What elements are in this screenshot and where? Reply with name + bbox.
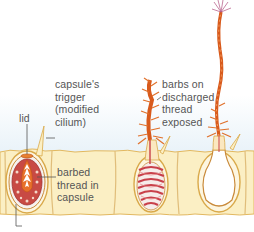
label-line: lid <box>19 112 30 125</box>
label-line: (modified <box>55 103 99 116</box>
diagram-artwork <box>0 0 254 232</box>
label-line: barbs on <box>162 78 214 91</box>
label-line: thread <box>162 103 214 116</box>
label-line: barbed <box>57 166 99 179</box>
label-line: discharged <box>162 91 214 104</box>
label-line: cilium) <box>55 116 99 129</box>
nematocyst-diagram: capsule's trigger (modified cilium) lid … <box>0 0 254 232</box>
label-lid: lid <box>19 112 30 125</box>
label-line: thread in <box>57 179 99 192</box>
label-line: exposed <box>162 116 214 129</box>
label-line: capsule <box>57 191 99 204</box>
label-line: capsule's <box>55 78 99 91</box>
label-barbed-thread: barbed thread in capsule <box>57 166 99 204</box>
label-line: trigger <box>55 91 99 104</box>
label-barbs-exposed: barbs on discharged thread exposed <box>162 78 214 128</box>
label-capsule-trigger: capsule's trigger (modified cilium) <box>55 78 99 128</box>
